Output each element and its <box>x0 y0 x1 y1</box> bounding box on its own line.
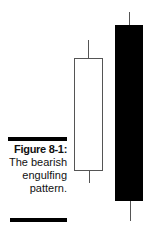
black-candle-lower-wick <box>130 201 131 221</box>
caption-line-1: The bearish <box>0 156 67 169</box>
white-candle-lower-wick <box>89 171 90 183</box>
caption-top-rule <box>8 137 67 141</box>
caption-bottom-rule <box>10 218 67 222</box>
white-candle-upper-wick <box>88 40 89 58</box>
black-candle-upper-wick <box>129 12 130 26</box>
caption-line-3: pattern. <box>0 182 67 195</box>
caption-line-2: engulfing <box>0 169 67 182</box>
figure-label: Figure 8-1: <box>0 143 67 156</box>
black-candle-body <box>115 25 143 201</box>
figure-caption: Figure 8-1: The bearish engulfing patter… <box>0 143 67 195</box>
white-candle-body <box>74 58 103 171</box>
